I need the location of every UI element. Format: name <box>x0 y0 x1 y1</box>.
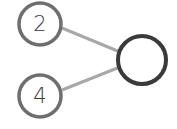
node-n3-circle <box>118 36 166 84</box>
number-bond-diagram: 2 4 <box>0 0 177 129</box>
node-n3 <box>118 36 166 84</box>
node-n1-label: 2 <box>33 12 46 36</box>
node-n2-label: 4 <box>33 84 46 108</box>
edge-n1-n3 <box>62 28 120 52</box>
node-n2: 4 <box>19 75 61 117</box>
edge-n2-n3 <box>62 67 120 90</box>
node-n1: 2 <box>19 3 61 45</box>
